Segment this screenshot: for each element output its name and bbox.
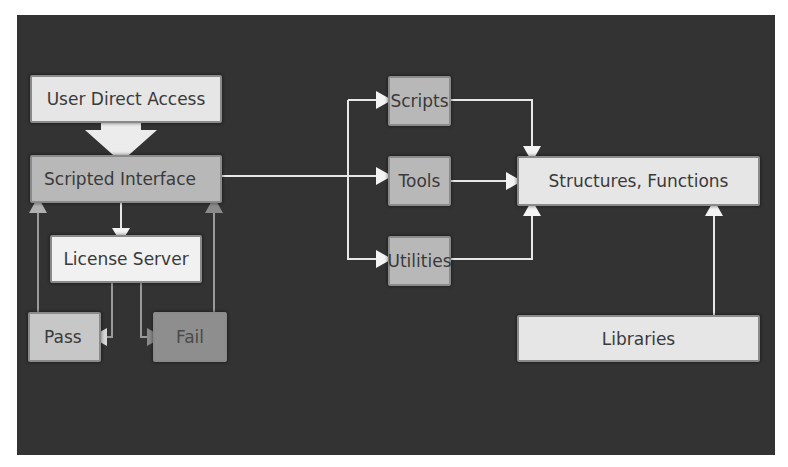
node-label: Scripts: [390, 91, 448, 111]
node-license-server: License Server: [50, 235, 202, 283]
node-label: Libraries: [602, 329, 675, 349]
node-scripts: Scripts: [388, 76, 451, 126]
node-label: Pass: [44, 327, 82, 347]
node-libraries: Libraries: [517, 315, 760, 362]
node-utilities: Utilities: [388, 236, 451, 286]
node-label: Scripted Interface: [44, 169, 196, 189]
node-label: User Direct Access: [47, 89, 206, 109]
node-tools: Tools: [388, 156, 451, 206]
node-pass: Pass: [28, 312, 101, 362]
node-label: License Server: [63, 249, 188, 269]
node-fail: Fail: [153, 312, 227, 362]
node-label: Tools: [399, 171, 441, 191]
node-user-direct-access: User Direct Access: [30, 75, 222, 123]
node-label: Fail: [176, 327, 204, 347]
node-scripted-interface: Scripted Interface: [30, 155, 222, 203]
node-label: Utilities: [388, 251, 452, 271]
node-label: Structures, Functions: [549, 171, 729, 191]
node-structures-functions: Structures, Functions: [517, 156, 760, 206]
